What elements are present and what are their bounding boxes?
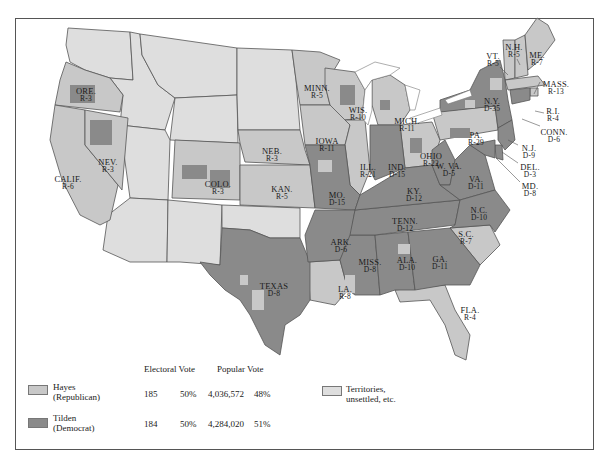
state-label-louisiana: LA.R-8: [338, 285, 352, 301]
hayes-electoral-pct: 50%: [180, 389, 197, 399]
state-label-alabama: ALA.D-10: [397, 256, 417, 272]
state-label-new-jersey: N.J.D-9: [522, 144, 537, 160]
state-label-texas: TEXASD-8: [260, 282, 288, 298]
tilden-electoral-votes: 184: [144, 419, 158, 429]
state-label-kentucky: KY.D-12: [406, 187, 422, 203]
state-label-florida: FLA.R-4: [461, 306, 480, 322]
tilden-popular-votes: 4,284,020: [208, 419, 244, 429]
state-label-georgia: GA.D-11: [432, 255, 448, 271]
legend-header-popular: Popular Vote: [217, 364, 263, 374]
state-label-missouri: MO.D-15: [329, 191, 345, 207]
legend-label-territories: Territories,unsettled, etc.: [346, 384, 396, 404]
state-label-west-virginia: W. VA.D-5: [436, 162, 462, 178]
state-label-iowa: IOWAR-11: [316, 137, 339, 153]
state-label-new-hampshire: N.H.R-5: [505, 43, 522, 59]
tilden-popular-pct: 51%: [254, 419, 271, 429]
state-label-maryland: MD.D-8: [522, 182, 538, 198]
state-label-delaware: DEL.D-3: [520, 163, 539, 179]
state-label-nebraska: NEB.R-3: [262, 147, 282, 163]
state-label-nevada: NEV.R-3: [98, 158, 117, 174]
state-label-rhode-island: R.I.R-4: [546, 107, 560, 123]
legend-swatch-territories: [322, 386, 342, 396]
state-label-pennsylvania: PA.R-29: [468, 131, 484, 147]
state-label-connecticut: CONN.D-6: [540, 128, 567, 144]
state-label-oregon: ORE.R-3: [76, 87, 96, 103]
legend-header-electoral: Electoral Vote: [144, 364, 195, 374]
state-label-indiana: IND.D-15: [388, 163, 406, 179]
legend-swatch-republican: [28, 385, 48, 395]
hayes-popular-votes: 4,036,572: [208, 389, 244, 399]
state-label-colorado: COLO.R-3: [205, 180, 231, 196]
state-label-vermont: VT.R-5: [486, 52, 499, 68]
hayes-popular-pct: 48%: [254, 389, 271, 399]
state-label-north-carolina: N.C.D-10: [471, 206, 488, 222]
state-label-mississippi: MISS.D-8: [359, 258, 382, 274]
state-label-minnesota: MINN.R-5: [304, 84, 330, 100]
hayes-electoral-votes: 185: [144, 389, 158, 399]
state-label-wisconsin: WIS.R-10: [349, 106, 368, 122]
state-label-maine: ME.R-7: [529, 51, 544, 67]
state-label-virginia: VA.D-11: [468, 175, 484, 191]
state-label-new-york: N.Y.D-35: [484, 97, 500, 113]
legend-label-hayes: Hayes(Republican): [53, 382, 100, 402]
state-label-kansas: KAN.R-5: [271, 185, 292, 201]
legend-label-tilden: Tilden(Democrat): [53, 413, 94, 433]
state-label-arkansas: ARK.D-6: [331, 238, 352, 254]
legend-swatch-democrat: [28, 418, 48, 428]
tilden-electoral-pct: 50%: [180, 419, 197, 429]
state-label-california: CALIF.R-6: [54, 175, 81, 191]
state-label-tennessee: TENN.D-12: [392, 217, 418, 233]
state-label-massachusetts: MASS.R-13: [543, 80, 569, 96]
state-label-south-carolina: S.C.R-7: [458, 230, 473, 246]
state-label-michigan: MICH.R-11: [394, 117, 419, 133]
state-label-illinois: ILL.R-21: [360, 163, 376, 179]
